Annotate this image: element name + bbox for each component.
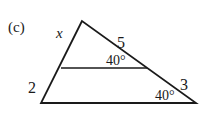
part-label: (c) [8, 19, 25, 36]
triangle-diagram: (c) x 2 5 3 40° 40° [0, 0, 202, 127]
side-label-3: 3 [180, 76, 188, 93]
side-label-2: 2 [28, 79, 36, 96]
side-label-x: x [55, 25, 63, 41]
angle-label-inner: 40° [106, 53, 126, 68]
angle-label-bottom-right: 40° [155, 88, 175, 103]
side-label-5: 5 [117, 34, 125, 51]
